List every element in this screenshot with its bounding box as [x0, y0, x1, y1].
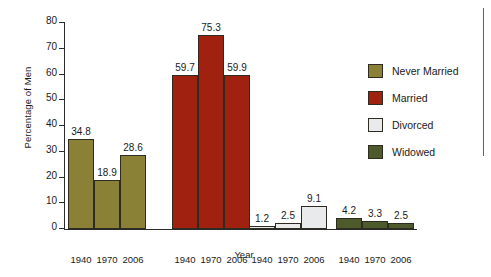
- y-axis-tick-label: 30: [46, 144, 57, 155]
- plot-area: 34.8194018.9197028.6200659.7194075.31970…: [64, 22, 417, 229]
- bar-group: 59.7194075.3197059.92006: [172, 22, 250, 229]
- x-axis-tick-label: 2006: [297, 254, 331, 265]
- x-axis-title: Year: [214, 249, 274, 260]
- page-edge-rule: [483, 8, 484, 156]
- bar[interactable]: [94, 180, 120, 229]
- legend-item-label: Married: [392, 92, 428, 104]
- y-axis-tick-label: 50: [46, 92, 57, 103]
- legend-item[interactable]: Married: [368, 84, 480, 111]
- bar[interactable]: [68, 139, 94, 229]
- y-axis-tick-label: 10: [46, 195, 57, 206]
- bar[interactable]: [249, 226, 275, 229]
- legend: Never MarriedMarriedDivorcedWidowed: [368, 57, 480, 165]
- y-axis-tick-label: 40: [46, 118, 57, 129]
- bar-chart: Percentage of Men 01020304050607080 34.8…: [0, 0, 491, 277]
- legend-swatch: [368, 91, 383, 105]
- legend-item[interactable]: Never Married: [368, 57, 480, 84]
- bar-group: 34.8194018.9197028.62006: [68, 22, 146, 229]
- x-axis-tick-label: 2006: [384, 254, 418, 265]
- bar-value-label: 34.8: [63, 126, 99, 137]
- bar-value-label: 2.5: [383, 210, 419, 221]
- bar[interactable]: [388, 223, 414, 229]
- legend-item[interactable]: Divorced: [368, 111, 480, 138]
- y-axis-tick-label: 80: [46, 15, 57, 26]
- legend-swatch: [368, 64, 383, 78]
- bar-value-label: 75.3: [193, 22, 229, 33]
- bar[interactable]: [301, 206, 327, 229]
- y-axis-title: Percentage of Men: [22, 43, 33, 173]
- legend-item-label: Never Married: [392, 65, 459, 77]
- legend-swatch: [368, 118, 383, 132]
- bar[interactable]: [336, 218, 362, 229]
- x-axis-tick-label: 2006: [116, 254, 150, 265]
- bar[interactable]: [224, 75, 250, 229]
- legend-item-label: Divorced: [392, 119, 433, 131]
- bar-group: 1.219402.519709.12006: [249, 22, 327, 229]
- y-axis-tick-label: 20: [46, 170, 57, 181]
- bar-value-label: 28.6: [115, 142, 151, 153]
- y-axis-ticks: 01020304050607080: [40, 22, 64, 228]
- bar[interactable]: [172, 75, 198, 229]
- y-axis-tick-label: 60: [46, 67, 57, 78]
- legend-item[interactable]: Widowed: [368, 138, 480, 165]
- y-axis-tick-label: 70: [46, 41, 57, 52]
- bar[interactable]: [362, 221, 388, 229]
- bar[interactable]: [275, 223, 301, 229]
- legend-item-label: Widowed: [392, 146, 435, 158]
- legend-swatch: [368, 145, 383, 159]
- bar-value-label: 9.1: [296, 193, 332, 204]
- y-axis-tick-label: 0: [51, 221, 57, 232]
- bar[interactable]: [120, 155, 146, 229]
